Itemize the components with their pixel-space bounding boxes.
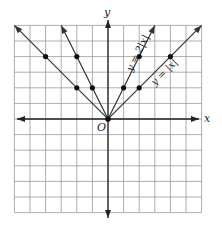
graph: x y O y = 2|x| y = |x|	[0, 0, 222, 227]
x-axis-right-arrow-icon	[191, 116, 199, 122]
y-axis-down-arrow-icon	[105, 210, 111, 218]
data-point	[74, 85, 79, 90]
curve-label-abs: y = |x|	[148, 56, 180, 88]
x-axis-left-arrow-icon	[17, 116, 25, 122]
data-point	[90, 85, 95, 90]
data-point	[43, 54, 48, 59]
data-point	[137, 85, 142, 90]
origin-label: O	[97, 121, 106, 134]
curve-label-2abs: y = 2|x|	[123, 33, 151, 74]
data-point	[105, 116, 110, 121]
data-point	[121, 85, 126, 90]
y-axis-label: y	[103, 6, 111, 19]
curve-arrow-icon	[61, 25, 67, 33]
x-axis-label: x	[204, 112, 211, 125]
data-point	[74, 54, 79, 59]
curve-arrow-icon	[149, 25, 155, 33]
y-axis-up-arrow-icon	[105, 20, 111, 28]
